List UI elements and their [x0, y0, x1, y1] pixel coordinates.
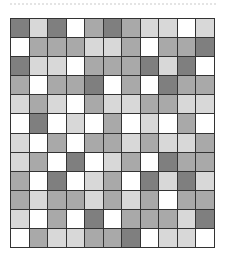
grid-cell: [104, 19, 122, 37]
grid-cell: [30, 95, 48, 113]
grid-cell: [67, 38, 85, 56]
grid-cell: [67, 191, 85, 209]
grid-cell: [122, 38, 140, 56]
grid-cell: [67, 210, 85, 228]
grid-cell: [11, 114, 29, 132]
grid-cell: [122, 210, 140, 228]
grid-cell: [196, 95, 214, 113]
grid-cell: [141, 76, 159, 94]
grid-cell: [122, 191, 140, 209]
grid-cell: [141, 134, 159, 152]
grid-cell: [30, 38, 48, 56]
grid-cell: [11, 19, 29, 37]
grid-cell: [196, 153, 214, 171]
grid-cell: [48, 114, 66, 132]
grid-cell: [178, 210, 196, 228]
grid-cell: [141, 38, 159, 56]
grid-cell: [67, 172, 85, 190]
grid-cell: [104, 134, 122, 152]
grid-cell: [85, 172, 103, 190]
top-dotted-divider: [10, 3, 216, 5]
grid-cell: [11, 210, 29, 228]
grid-cell: [104, 153, 122, 171]
shade-grid: [10, 18, 215, 248]
grid-cell: [48, 134, 66, 152]
grid-cell: [85, 38, 103, 56]
grid-cell: [48, 57, 66, 75]
grid-cell: [159, 153, 177, 171]
grid-cell: [85, 114, 103, 132]
grid-cell: [11, 191, 29, 209]
grid-cell: [178, 153, 196, 171]
grid-cell: [196, 114, 214, 132]
grid-cell: [141, 114, 159, 132]
grid-cell: [67, 134, 85, 152]
grid-cell: [48, 191, 66, 209]
grid-cell: [122, 229, 140, 247]
grid-cell: [178, 229, 196, 247]
grid-cell: [159, 19, 177, 37]
grid-cell: [30, 114, 48, 132]
grid-cell: [196, 210, 214, 228]
grid-cell: [48, 95, 66, 113]
grid-cell: [11, 153, 29, 171]
grid-cell: [122, 95, 140, 113]
grid-cell: [48, 76, 66, 94]
grid-cell: [67, 95, 85, 113]
grid-cell: [85, 191, 103, 209]
grid-cell: [159, 38, 177, 56]
grid-cell: [159, 76, 177, 94]
grid-cell: [67, 19, 85, 37]
grid-cell: [48, 210, 66, 228]
grid-cell: [196, 134, 214, 152]
grid-cell: [11, 57, 29, 75]
grid-cell: [11, 229, 29, 247]
grid-cell: [141, 95, 159, 113]
grid-cell: [85, 95, 103, 113]
grid-cell: [30, 172, 48, 190]
grid-cell: [104, 57, 122, 75]
grid-cell: [178, 38, 196, 56]
grid-cell: [30, 134, 48, 152]
grid-cell: [196, 19, 214, 37]
grid-cell: [104, 76, 122, 94]
grid-cell: [196, 57, 214, 75]
grid-cell: [122, 76, 140, 94]
grid-cell: [104, 191, 122, 209]
grid-cell: [196, 76, 214, 94]
grid-cell: [159, 172, 177, 190]
grid-cell: [159, 210, 177, 228]
grid-cell: [178, 172, 196, 190]
grid-cell: [141, 191, 159, 209]
grid-cell: [67, 76, 85, 94]
grid-cell: [11, 172, 29, 190]
grid-cell: [48, 172, 66, 190]
grid-cell: [159, 229, 177, 247]
grid-cell: [122, 114, 140, 132]
grid-cell: [85, 229, 103, 247]
grid-cell: [122, 153, 140, 171]
grid-cell: [11, 76, 29, 94]
grid-cell: [159, 191, 177, 209]
grid-cell: [196, 172, 214, 190]
grid-cell: [159, 95, 177, 113]
grid-cell: [48, 38, 66, 56]
grid-cell: [67, 114, 85, 132]
grid-cell: [141, 19, 159, 37]
grid-cell: [11, 38, 29, 56]
grid-cell: [104, 95, 122, 113]
grid-cell: [30, 76, 48, 94]
grid-cell: [85, 76, 103, 94]
grid-cell: [159, 57, 177, 75]
grid-cell: [178, 114, 196, 132]
grid-cell: [104, 210, 122, 228]
grid-cell: [48, 19, 66, 37]
grid-cell: [48, 153, 66, 171]
grid-cell: [141, 172, 159, 190]
grid-cell: [85, 153, 103, 171]
grid-cell: [104, 172, 122, 190]
grid-cell: [104, 114, 122, 132]
grid-cell: [178, 134, 196, 152]
grid-cell: [178, 191, 196, 209]
grid-cell: [85, 57, 103, 75]
